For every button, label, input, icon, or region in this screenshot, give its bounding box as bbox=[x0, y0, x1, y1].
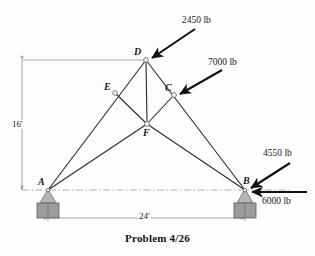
truss-member-fb bbox=[147, 124, 245, 190]
joint-label-c: C bbox=[165, 83, 172, 93]
truss-member-df bbox=[146, 60, 147, 124]
truss-figure: ABCDEF2450 lb7000 lb4550 lb6000 lb16'24'… bbox=[0, 0, 315, 256]
height-dimension-label: 16' bbox=[11, 120, 24, 129]
load-6000-label: 6000 lb bbox=[262, 197, 291, 207]
load-2450-arrow bbox=[152, 29, 195, 58]
pin-support-a bbox=[37, 189, 59, 218]
joint-label-f: F bbox=[143, 128, 150, 138]
load-4550-arrow bbox=[251, 163, 290, 188]
load-2450-label: 2450 lb bbox=[182, 16, 211, 26]
joint-label-a: A bbox=[38, 177, 45, 187]
joint-label-d: D bbox=[134, 47, 141, 57]
load-4550-label: 4550 lb bbox=[263, 149, 292, 159]
pin-support-b bbox=[234, 189, 256, 218]
span-dimension-label: 24' bbox=[138, 212, 151, 221]
joint-c bbox=[172, 93, 177, 98]
truss-diagram-canvas bbox=[0, 0, 315, 256]
load-arrows bbox=[152, 29, 307, 192]
truss-member-db bbox=[146, 60, 245, 190]
joint-a bbox=[46, 188, 50, 192]
joint-e bbox=[113, 91, 118, 96]
joint-f bbox=[145, 122, 150, 127]
joint-b bbox=[243, 188, 247, 192]
truss-member-ef bbox=[115, 93, 147, 124]
dimension-lines bbox=[22, 60, 245, 221]
load-7000-arrow bbox=[180, 70, 222, 94]
joint-label-e: E bbox=[104, 82, 111, 92]
joint-d bbox=[144, 58, 149, 63]
joint-label-b: B bbox=[243, 176, 250, 186]
truss-member-ad bbox=[48, 60, 146, 190]
truss-member-cf bbox=[147, 95, 174, 124]
load-7000-label: 7000 lb bbox=[208, 58, 237, 68]
figure-caption: Problem 4/26 bbox=[0, 232, 315, 244]
truss-member-af bbox=[48, 124, 147, 190]
